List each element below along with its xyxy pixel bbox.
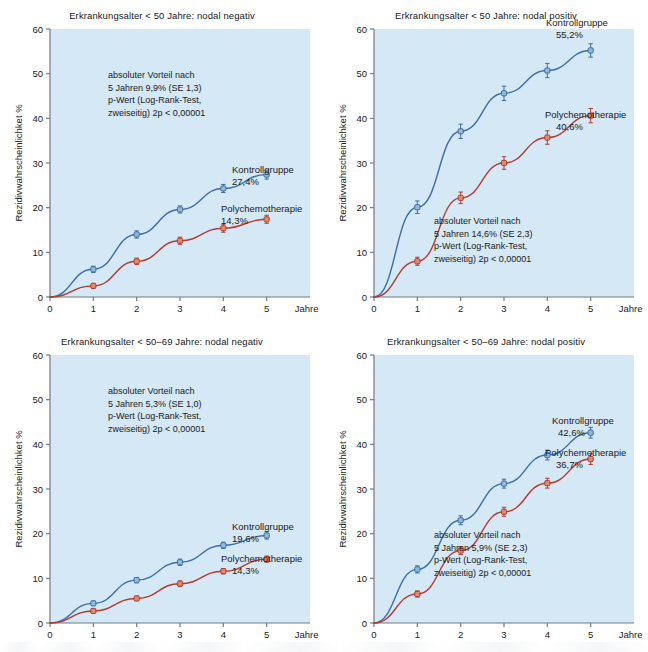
annotation-line: 5 Jahren 5,3% (SE 1,0) [108,399,202,409]
x-axis-tick-label: 3 [501,629,506,640]
annotation-line: zweiseitig) 2p < 0,00001 [108,424,205,434]
annotation-line: absoluter Vorteil nach [108,386,195,396]
data-point-marker [91,601,96,606]
series-end-value-kontrollgruppe: 55,2% [556,29,583,40]
data-point-marker [221,543,226,548]
y-axis-tick-label: 0 [362,618,367,629]
y-axis-title: Rezidivwahrscheinlichket % [13,430,24,548]
y-axis-tick-label: 50 [32,68,43,79]
data-point-marker [458,518,463,523]
y-axis-tick-label: 10 [32,573,43,584]
page-bottom-text-smudge [0,642,648,652]
y-axis-tick-label: 30 [32,158,43,169]
x-axis-tick-label: 2 [458,303,463,314]
x-axis-title: Jahre [619,629,643,640]
y-axis-tick-label: 40 [356,439,367,450]
x-axis-tick-label: 0 [47,629,52,640]
x-axis-tick-label: 1 [91,303,96,314]
y-axis-tick-label: 60 [32,350,43,361]
y-axis-tick-label: 40 [356,113,367,124]
y-axis-tick-label: 40 [32,113,43,124]
plot-area-bottom-left: 0102030405060012345JahreRezidivwahrschei… [0,326,324,652]
data-point-marker [588,48,593,53]
y-axis-tick-label: 0 [38,292,43,303]
data-point-marker [177,560,182,565]
y-axis-tick-label: 0 [38,618,43,629]
figure-recurrence-probability-panels: Erkrankungsalter < 50 Jahre: nodal negat… [0,0,648,652]
series-end-value-polychemotherapie: 36,7% [556,459,583,470]
data-point-marker [91,608,96,613]
data-point-marker [134,578,139,583]
annotation-line: 5 Jahren 5,9% (SE 2,3) [434,543,528,553]
chart-panel-bottom-left: Erkrankungsalter < 50–69 Jahre: nodal ne… [0,326,324,652]
y-axis-tick-label: 20 [356,202,367,213]
series-end-label-kontrollgruppe: Kontrollgruppe [546,17,608,28]
x-axis-tick-label: 5 [264,629,269,640]
y-axis-tick-label: 20 [32,202,43,213]
data-point-marker [415,591,420,596]
x-axis-title: Jahre [295,629,319,640]
series-end-label-kontrollgruppe: Kontrollgruppe [552,415,614,426]
data-point-marker [264,533,269,538]
x-axis-tick-label: 4 [545,303,550,314]
y-axis-tick-label: 10 [356,573,367,584]
x-axis-tick-label: 4 [221,303,226,314]
data-point-marker [134,259,139,264]
y-axis-title: Rezidivwahrscheinlichket % [337,104,348,222]
annotation-line: absoluter Vorteil nach [108,70,195,80]
x-axis-tick-label: 5 [588,629,593,640]
x-axis-tick-label: 1 [415,629,420,640]
annotation-line: zweiseitig) 2p < 0,00001 [108,108,205,118]
y-axis-tick-label: 50 [356,68,367,79]
annotation-line: zweiseitig) 2p < 0,00001 [434,254,531,264]
series-end-label-polychemotherapie: Polychemotherapie [221,553,302,564]
data-point-marker [221,569,226,574]
y-axis-tick-label: 20 [356,528,367,539]
data-point-marker [221,186,226,191]
x-axis-tick-label: 5 [588,303,593,314]
y-axis-tick-label: 60 [32,24,43,35]
data-point-marker [458,129,463,134]
data-point-marker [545,135,550,140]
data-point-marker [177,207,182,212]
plot-area-top-left: 0102030405060012345JahreRezidivwahrschei… [0,0,324,326]
y-axis-tick-label: 30 [32,484,43,495]
annotation-line: 5 Jahren 14,6% (SE 2,3) [434,229,533,239]
y-axis-tick-label: 60 [356,24,367,35]
x-axis-tick-label: 2 [134,629,139,640]
annotation-line: p-Wert (Log-Rank-Test, [108,95,201,105]
x-axis-tick-label: 3 [501,303,506,314]
series-end-label-polychemotherapie: Polychemotherapie [545,109,626,120]
series-end-value-kontrollgruppe: 42,6% [558,427,585,438]
annotation-line: 5 Jahren 9,9% (SE 1,3) [108,83,202,93]
y-axis-tick-label: 50 [356,394,367,405]
y-axis-tick-label: 30 [356,484,367,495]
series-end-label-polychemotherapie: Polychemotherapie [221,203,302,214]
data-point-marker [545,481,550,486]
y-axis-tick-label: 10 [356,247,367,258]
data-point-marker [91,267,96,272]
plot-background [374,355,634,623]
x-axis-tick-label: 2 [458,629,463,640]
y-axis-tick-label: 60 [356,350,367,361]
series-end-value-polychemotherapie: 14,3% [232,565,259,576]
x-axis-tick-label: 4 [545,629,550,640]
annotation-line: absoluter Vorteil nach [434,216,521,226]
x-axis-tick-label: 0 [371,303,376,314]
data-point-marker [588,430,593,435]
y-axis-title: Rezidivwahrscheinlichket % [337,430,348,548]
data-point-marker [415,205,420,210]
data-point-marker [221,226,226,231]
chart-panel-top-right: Erkrankungsalter < 50 Jahre: nodal posit… [324,0,648,326]
series-end-label-kontrollgruppe: Kontrollgruppe [232,164,294,175]
series-end-label-kontrollgruppe: Kontrollgruppe [232,521,294,532]
chart-panel-top-left: Erkrankungsalter < 50 Jahre: nodal negat… [0,0,324,326]
y-axis-tick-label: 50 [32,394,43,405]
data-point-marker [264,217,269,222]
x-axis-tick-label: 1 [415,303,420,314]
data-point-marker [177,238,182,243]
data-point-marker [501,509,506,514]
data-point-marker [91,283,96,288]
annotation-line: p-Wert (Log-Rank-Test, [434,555,527,565]
data-point-marker [134,596,139,601]
